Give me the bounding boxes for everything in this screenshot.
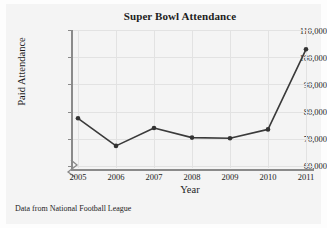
data-point-2006 [114, 144, 119, 149]
x-tick-label-2005: 2005 [58, 172, 98, 182]
data-point-2008 [190, 135, 195, 140]
screenshot-root: Super Bowl Attendance 110,000 100,000 90… [0, 0, 327, 228]
series-line [78, 49, 306, 146]
data-point-2011 [304, 47, 309, 52]
x-tick-label-2011: 2011 [286, 172, 326, 182]
series-markers [76, 47, 309, 148]
x-tick-label-2007: 2007 [134, 172, 174, 182]
x-tick-label-2006: 2006 [96, 172, 136, 182]
data-point-2007 [152, 126, 157, 131]
x-axis-title: Year [150, 184, 230, 195]
data-point-2009 [228, 136, 233, 141]
y-axis-title: Paid Attendance [16, 12, 27, 132]
x-tick-label-2009: 2009 [210, 172, 250, 182]
x-tick-label-2008: 2008 [172, 172, 212, 182]
line-chart-figure: Super Bowl Attendance 110,000 100,000 90… [0, 0, 327, 228]
source-note: Data from National Football League [15, 204, 131, 213]
x-tick-label-2010: 2010 [248, 172, 288, 182]
data-point-2010 [266, 127, 271, 132]
data-point-2005 [76, 116, 81, 121]
